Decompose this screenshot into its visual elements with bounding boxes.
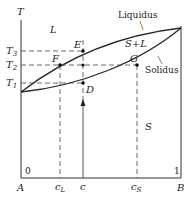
t3-label: T3: [6, 45, 18, 58]
t1-label: T1: [6, 77, 17, 90]
liquidus-label: Liquidus: [118, 10, 158, 20]
y-axis-label: T: [17, 6, 25, 17]
phase-diagram: T T3 T2 T1 E F G D L S+L S Liquidus Soli…: [0, 0, 193, 198]
label-E: E: [73, 39, 82, 50]
x-min-label: 0: [25, 166, 31, 176]
t2-label: T2: [6, 59, 18, 72]
liquidus-curve: [21, 28, 181, 92]
x-tick-c: c: [80, 181, 86, 192]
solidus-pointer: [158, 56, 162, 64]
x-tick-cS: cS: [131, 181, 142, 194]
point-E: [81, 49, 85, 53]
x-right-label-B: B: [176, 182, 184, 193]
label-F: F: [51, 53, 60, 64]
x-tick-cL: cL: [55, 181, 66, 194]
x-max-label: 1: [174, 166, 180, 176]
point-mid: [81, 63, 84, 66]
label-D: D: [85, 84, 94, 95]
label-G: G: [130, 53, 138, 64]
arrow-up-icon: [81, 99, 86, 106]
liquidus-pointer: [140, 21, 143, 30]
solidus-curve: [21, 28, 181, 92]
region-liquid: L: [49, 24, 57, 35]
region-solid: S: [145, 121, 152, 132]
x-left-label-A: A: [16, 182, 24, 193]
region-two-phase: S+L: [125, 38, 147, 49]
solidus-label: Solidus: [145, 65, 179, 75]
point-D: [81, 81, 85, 85]
